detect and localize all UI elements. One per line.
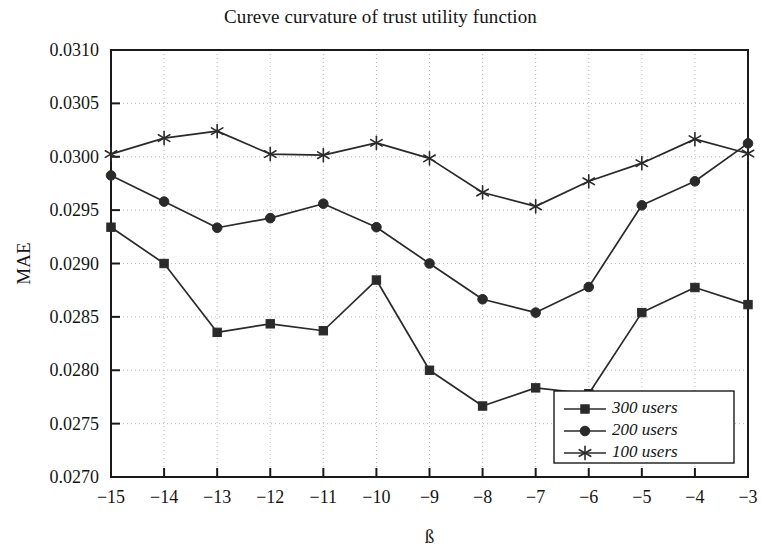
marker-asterisk (158, 135, 164, 138)
x-axis-tick-label: −6 (579, 487, 598, 507)
x-axis-tick-label: −15 (97, 487, 125, 507)
x-axis-tick-label: −5 (632, 487, 651, 507)
marker-circle (212, 223, 222, 233)
marker-circle (637, 201, 647, 211)
marker-asterisk (636, 160, 642, 163)
marker-circle (584, 282, 594, 292)
y-axis-tick-label: 0.0280 (50, 360, 100, 380)
marker-asterisk (589, 181, 595, 184)
x-axis-tick-label: −3 (738, 487, 757, 507)
marker-asterisk (430, 155, 436, 158)
marker-asterisk (695, 136, 701, 139)
marker-asterisk (689, 136, 695, 139)
y-axis-tick-label: 0.0290 (50, 254, 100, 274)
marker-asterisk (217, 128, 223, 131)
marker-circle (425, 259, 435, 269)
marker-square (744, 300, 752, 308)
marker-circle (106, 171, 116, 181)
marker-circle (319, 199, 329, 209)
marker-asterisk (536, 206, 542, 209)
legend-label: 200 users (612, 420, 678, 439)
marker-asterisk (376, 140, 382, 143)
y-axis-tick-label: 0.0300 (50, 147, 100, 167)
marker-circle (265, 213, 275, 223)
marker-asterisk (477, 193, 483, 196)
x-axis-tick-label: −4 (685, 487, 704, 507)
marker-asterisk (371, 140, 377, 143)
series-line (111, 143, 748, 312)
x-axis-tick-label: −12 (256, 487, 284, 507)
marker-square (160, 259, 168, 267)
marker-asterisk (164, 138, 170, 141)
series-100-users (105, 125, 753, 213)
marker-square (213, 328, 221, 336)
y-axis-tick-label: 0.0295 (50, 200, 100, 220)
x-axis-tick-label: −10 (362, 487, 390, 507)
chart-plot: 0.02700.02750.02800.02850.02900.02950.03… (0, 0, 761, 554)
marker-square (107, 223, 115, 231)
y-axis-tick-label: 0.0275 (50, 414, 100, 434)
marker-square (425, 366, 433, 374)
legend-label: 100 users (612, 442, 678, 461)
marker-square (691, 283, 699, 291)
legend: 300 users200 users100 users (554, 391, 734, 463)
marker-square (319, 327, 327, 335)
marker-circle (478, 294, 488, 304)
y-axis-tick-label: 0.0310 (50, 40, 100, 60)
marker-asterisk (642, 163, 648, 166)
marker-asterisk (530, 206, 536, 209)
marker-square (372, 276, 380, 284)
marker-asterisk (483, 189, 489, 192)
y-axis-tick-label: 0.0285 (50, 307, 100, 327)
y-axis-tick-label: 0.0305 (50, 93, 100, 113)
y-axis-tick-label: 0.0270 (50, 467, 100, 487)
marker-square (638, 308, 646, 316)
x-axis-tick-label: −14 (150, 487, 178, 507)
marker-square (581, 405, 589, 413)
marker-circle (531, 308, 541, 318)
marker-square (266, 320, 274, 328)
marker-asterisk (323, 155, 329, 158)
x-axis-tick-label: −9 (420, 487, 439, 507)
marker-square (531, 384, 539, 392)
marker-circle (580, 426, 590, 436)
marker-circle (159, 197, 169, 207)
marker-asterisk (424, 158, 430, 161)
x-axis-tick-label: −11 (310, 487, 337, 507)
marker-square (478, 402, 486, 410)
x-axis-title: ß (425, 526, 435, 547)
y-axis-title: MAE (13, 242, 34, 284)
chart-container: Cureve curvature of trust utility functi… (0, 0, 761, 554)
marker-asterisk (583, 178, 589, 181)
marker-asterisk (211, 128, 217, 131)
marker-circle (372, 222, 382, 232)
x-axis-tick-label: −13 (203, 487, 231, 507)
x-axis-tick-label: −8 (473, 487, 492, 507)
legend-label: 300 users (611, 398, 678, 417)
x-axis-tick-label: −7 (526, 487, 545, 507)
marker-circle (690, 177, 700, 187)
